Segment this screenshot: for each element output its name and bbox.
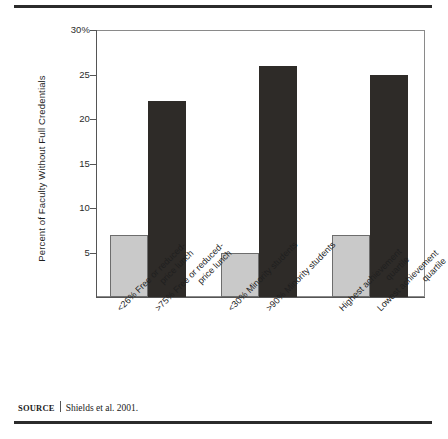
y-tick-label: 10: [38, 203, 90, 213]
bottom-rule: [14, 421, 432, 424]
source-text: Shields et al. 2001.: [66, 403, 139, 413]
y-tick-label: 5: [38, 248, 90, 258]
y-tick-label: 25: [38, 70, 90, 80]
y-tick-label: 30%: [38, 25, 90, 35]
y-tick-label-wrap: 20: [30, 114, 90, 124]
y-tick-label: 20: [38, 114, 90, 124]
source-line: SOURCE Shields et al. 2001.: [18, 400, 138, 413]
y-tick-label-wrap: 5: [30, 248, 90, 258]
bar-series: [96, 30, 425, 297]
y-tick-label: 15: [38, 159, 90, 169]
source-label: SOURCE: [18, 403, 55, 413]
y-tick-label-wrap: 30%: [30, 25, 90, 35]
x-axis-labels: <26% Free or reduced-price lunch>75% Fre…: [0, 300, 445, 395]
top-rule: [14, 5, 432, 8]
source-divider: [60, 401, 61, 412]
y-tick-label-wrap: 25: [30, 70, 90, 80]
y-tick-label-wrap: 15: [30, 159, 90, 169]
y-tick-label-wrap: 10: [30, 203, 90, 213]
